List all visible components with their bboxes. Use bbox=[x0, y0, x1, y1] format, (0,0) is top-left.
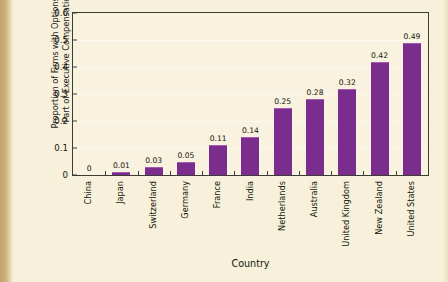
bar-chart-figure: Proportion of Firms with Options as Part… bbox=[13, 0, 442, 282]
bar-slot: 0.11 bbox=[202, 13, 234, 175]
page-right-edge-shadow bbox=[442, 0, 448, 282]
y-axis-tick-label: 0.6 bbox=[54, 8, 73, 18]
bar-value-label: 0.42 bbox=[371, 51, 388, 60]
bar-slot: 0.14 bbox=[234, 13, 266, 175]
x-axis-category-label: Japan bbox=[120, 158, 130, 181]
bar-series: 00.010.030.050.110.140.250.280.320.420.4… bbox=[73, 13, 428, 175]
x-axis-category-label-text: United States bbox=[406, 181, 416, 236]
bar-value-label: 0.32 bbox=[339, 78, 356, 87]
x-axis-title: Country bbox=[72, 258, 429, 269]
bar-value-label: 0.49 bbox=[403, 32, 420, 41]
x-axis-category-label: France bbox=[217, 154, 227, 181]
x-axis-category-label: United Kingdom bbox=[346, 115, 356, 181]
y-axis-tick-label: 0.3 bbox=[54, 89, 73, 99]
x-axis-category-label-text: Germany bbox=[180, 181, 190, 219]
x-axis-category-label-text: United Kingdom bbox=[341, 181, 351, 247]
bar-value-label: 0.25 bbox=[274, 97, 291, 106]
x-axis-category-label: Germany bbox=[185, 143, 195, 181]
bar-value-label: 0.28 bbox=[307, 88, 324, 97]
x-axis-category-label: United States bbox=[411, 126, 421, 181]
bar-slot: 0 bbox=[73, 13, 105, 175]
y-axis-tick-label: 0.5 bbox=[54, 35, 73, 45]
page-left-edge-shadow bbox=[0, 0, 13, 282]
bar-value-label: 0.11 bbox=[210, 134, 227, 143]
bar-value-label: 0.14 bbox=[242, 126, 259, 135]
y-axis-tick-label: 0.2 bbox=[54, 116, 73, 126]
x-axis-category-label-text: India bbox=[245, 181, 255, 201]
x-axis-category-label: Australia bbox=[314, 145, 324, 181]
y-axis-tick-label: 0 bbox=[63, 170, 73, 180]
bar-slot: 0.01 bbox=[105, 13, 137, 175]
y-axis-tick-label: 0.1 bbox=[54, 143, 73, 153]
x-axis-category-label: India bbox=[250, 161, 260, 181]
x-axis-category-label-text: Australia bbox=[309, 181, 319, 217]
plot-area: 00.10.20.30.40.50.6 00.010.030.050.110.1… bbox=[72, 12, 429, 176]
x-axis-category-label: New Zealand bbox=[379, 127, 389, 181]
x-axis-category-label-text: China bbox=[83, 181, 93, 204]
x-axis-category-label-text: France bbox=[212, 181, 222, 208]
page-background: Proportion of Firms with Options as Part… bbox=[0, 0, 448, 282]
x-axis-category-label: China bbox=[88, 158, 98, 181]
x-axis-category-label: Netherlands bbox=[282, 131, 292, 181]
y-axis-tick-label: 0.4 bbox=[54, 62, 73, 72]
x-axis-category-label: Switzerland bbox=[153, 133, 163, 181]
x-axis-category-label-text: Netherlands bbox=[277, 181, 287, 231]
x-axis-category-label-text: Japan bbox=[115, 181, 125, 204]
x-axis-category-label-text: New Zealand bbox=[374, 181, 384, 235]
x-axis-category-label-text: Switzerland bbox=[148, 181, 158, 229]
